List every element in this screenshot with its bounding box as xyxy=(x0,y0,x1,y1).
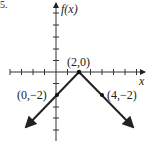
right-point-label: (4,−2) xyxy=(107,89,137,101)
vertex-label: (2,0) xyxy=(67,56,90,68)
vertex-point xyxy=(77,70,81,74)
graph xyxy=(0,0,147,142)
point-4-neg2 xyxy=(100,93,104,97)
y-axis-label: f(x) xyxy=(61,3,78,15)
point-0-neg2 xyxy=(55,93,59,97)
problem-number: 5. xyxy=(0,0,8,10)
left-point-label: (0,−2) xyxy=(17,89,47,101)
x-axis-label: x xyxy=(139,75,144,87)
